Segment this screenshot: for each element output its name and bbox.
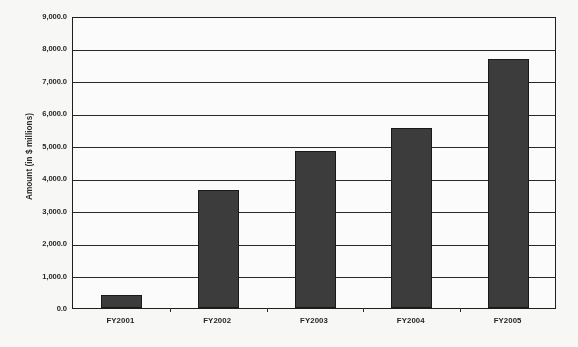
gridline	[73, 147, 555, 148]
x-axis-tick-label: FY2001	[75, 316, 165, 325]
bar	[198, 190, 239, 308]
bar	[295, 151, 336, 308]
y-axis-tick-label: 6,000.0	[4, 109, 67, 118]
plot-area	[72, 17, 556, 309]
x-axis-tick-label: FY2003	[269, 316, 359, 325]
y-axis-title-text: Amount (in $ millions)	[26, 112, 35, 199]
x-axis-tick-label: FY2004	[366, 316, 456, 325]
x-axis-tick	[267, 308, 268, 312]
y-axis-tick-label: 3,000.0	[4, 207, 67, 216]
gridline	[73, 82, 555, 83]
bar	[101, 295, 142, 308]
y-axis-tick-label: 8,000.0	[4, 44, 67, 53]
gridline	[73, 50, 555, 51]
bar	[391, 128, 432, 308]
y-axis-tick-label: 1,000.0	[4, 272, 67, 281]
plot-inner	[73, 18, 555, 308]
x-axis-tick	[460, 308, 461, 312]
y-axis-tick-label: 9,000.0	[4, 12, 67, 21]
x-axis-tick	[363, 308, 364, 312]
bar-chart-figure: Amount (in $ millions) 9,000.08,000.07,0…	[0, 0, 578, 347]
x-axis-tick-label: FY2005	[463, 316, 553, 325]
y-axis-tick-label: 5,000.0	[4, 142, 67, 151]
x-axis-tick	[170, 308, 171, 312]
y-axis-tick-label: 7,000.0	[4, 77, 67, 86]
bar	[488, 59, 529, 308]
x-axis-tick-label: FY2002	[172, 316, 262, 325]
y-axis-tick-label: 2,000.0	[4, 239, 67, 248]
y-axis-title: Amount (in $ millions)	[16, 0, 44, 312]
y-axis-tick-label: 0.0	[4, 304, 67, 313]
gridline	[73, 115, 555, 116]
y-axis-tick-label: 4,000.0	[4, 174, 67, 183]
